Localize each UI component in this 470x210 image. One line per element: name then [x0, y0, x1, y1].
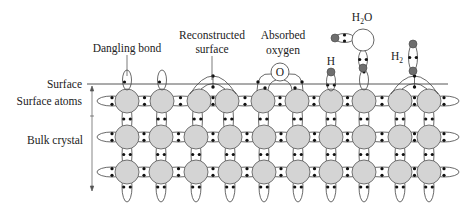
- electron-dot: [431, 185, 434, 188]
- surface-atom: [352, 89, 376, 113]
- surface-atom: [285, 89, 309, 113]
- electron-dot: [177, 132, 180, 135]
- electron-dot: [122, 185, 125, 188]
- label-bulk-crystal: Bulk crystal: [27, 134, 83, 147]
- electron-dot: [110, 103, 113, 106]
- label-oxygen: oxygen: [266, 44, 300, 57]
- electron-dot: [157, 117, 160, 120]
- electron-dot: [380, 103, 383, 106]
- electron-dot: [380, 174, 383, 177]
- bulk-atom: [417, 160, 441, 184]
- bulk-atom: [388, 125, 412, 149]
- electron-dot: [346, 139, 349, 142]
- electron-dot: [266, 153, 269, 156]
- lattice-atoms: [115, 89, 441, 184]
- electron-dot: [129, 185, 132, 188]
- electron-dot: [279, 174, 282, 177]
- electron-dot: [380, 167, 383, 170]
- electron-dot: [225, 185, 228, 188]
- bulk-atom: [184, 125, 208, 149]
- label-reconstructed-surface: surface: [195, 43, 228, 55]
- electron-dot: [424, 153, 427, 156]
- label-surface: Surface: [47, 78, 82, 90]
- electron-dot: [333, 153, 336, 156]
- electron-dot: [365, 58, 368, 61]
- surface-atom: [251, 89, 275, 113]
- electron-dot: [191, 153, 194, 156]
- electron-dot: [442, 139, 445, 142]
- bulk-atom: [388, 160, 412, 184]
- electron-dot: [300, 80, 303, 83]
- electron-dot: [263, 86, 266, 89]
- electron-dot: [211, 139, 214, 142]
- electron-dot: [278, 96, 281, 99]
- bulk-atom: [252, 160, 276, 184]
- electron-dot: [177, 174, 180, 177]
- electron-dot: [110, 139, 113, 142]
- electron-dot: [442, 96, 445, 99]
- electron-dot: [299, 117, 302, 120]
- bulk-atom: [149, 160, 173, 184]
- bulk-atom: [115, 125, 139, 149]
- electron-dot: [424, 117, 427, 120]
- electron-dot: [156, 185, 159, 188]
- electron-dot: [177, 139, 180, 142]
- electron-dot: [110, 174, 113, 177]
- electron-dot: [326, 185, 329, 188]
- electron-dot: [245, 174, 248, 177]
- electron-dot: [333, 185, 336, 188]
- electron-dot: [142, 139, 145, 142]
- electron-dot: [198, 153, 201, 156]
- electron-dot: [402, 153, 405, 156]
- electron-dot: [129, 117, 132, 120]
- electron-dot: [245, 132, 248, 135]
- electron-dot: [142, 174, 145, 177]
- electron-dot: [358, 58, 361, 61]
- electron-dot: [380, 96, 383, 99]
- bulk-atom: [218, 160, 242, 184]
- electron-dot: [265, 117, 268, 120]
- bulk-atom: [352, 160, 376, 184]
- label-surface-atoms: Surface atoms: [17, 95, 83, 107]
- bulk-atom: [286, 160, 310, 184]
- surface-atom: [150, 89, 174, 113]
- electron-dot: [211, 132, 214, 135]
- electron-dot: [346, 103, 349, 106]
- bulk-atom: [218, 125, 242, 149]
- bulk-atom: [286, 125, 310, 149]
- electron-dot: [110, 132, 113, 135]
- surface-atom: [115, 89, 139, 113]
- electron-dot: [431, 117, 434, 120]
- electron-dot: [346, 96, 349, 99]
- bulk-atom: [352, 125, 376, 149]
- electron-dot: [293, 117, 296, 120]
- electron-dot: [366, 185, 369, 188]
- electron-dot: [266, 185, 269, 188]
- electron-dot: [259, 153, 262, 156]
- electron-dot: [230, 117, 233, 120]
- electron-dot: [179, 96, 182, 99]
- electron-dot: [177, 167, 180, 170]
- electron-dot: [198, 185, 201, 188]
- bulk-atom: [319, 160, 343, 184]
- electron-dot: [293, 185, 296, 188]
- electron-dot: [256, 80, 259, 83]
- electron-dot: [129, 153, 132, 156]
- surface-bonding-diagram: O Surface Surface atoms Bulk crystal Dan…: [0, 0, 470, 210]
- electron-dot: [413, 167, 416, 170]
- electron-dot: [191, 185, 194, 188]
- electron-dot: [199, 117, 202, 120]
- electron-dot: [413, 96, 416, 99]
- electron-dot: [300, 153, 303, 156]
- electron-dot: [278, 103, 281, 106]
- electron-dot: [395, 117, 398, 120]
- electron-dot: [442, 167, 445, 170]
- electron-dot: [163, 185, 166, 188]
- electron-dot: [193, 117, 196, 120]
- electron-dot: [326, 153, 329, 156]
- electron-dot: [243, 103, 246, 106]
- bulk-atom: [115, 160, 139, 184]
- electron-dot: [293, 86, 296, 89]
- electron-dot: [346, 167, 349, 170]
- bulk-atom: [252, 125, 276, 149]
